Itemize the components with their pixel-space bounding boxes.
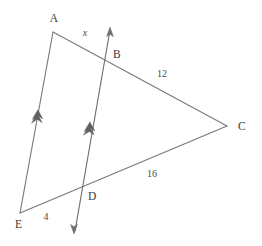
vertex-label-d: D xyxy=(88,190,96,202)
vertex-label-c: C xyxy=(238,120,246,132)
arrow-down-icon xyxy=(71,224,78,234)
vertex-labels: A B C D E xyxy=(15,12,246,230)
segment-a-c xyxy=(53,32,227,126)
vertex-label-b: B xyxy=(113,48,121,60)
triangle-sides xyxy=(20,32,227,213)
vertex-label-a: A xyxy=(50,12,59,24)
geometry-figure-svg: A B C D E x 12 16 4 xyxy=(0,0,262,246)
geometry-diagram: A B C D E x 12 16 4 xyxy=(0,0,262,246)
arrow-up-icon xyxy=(107,27,114,37)
label-16: 16 xyxy=(147,168,157,179)
label-4: 4 xyxy=(44,211,49,222)
segment-e-c xyxy=(20,126,227,213)
segment-a-e xyxy=(20,32,53,213)
vertex-label-e: E xyxy=(15,218,22,230)
label-12: 12 xyxy=(157,68,167,79)
label-x: x xyxy=(82,27,88,38)
